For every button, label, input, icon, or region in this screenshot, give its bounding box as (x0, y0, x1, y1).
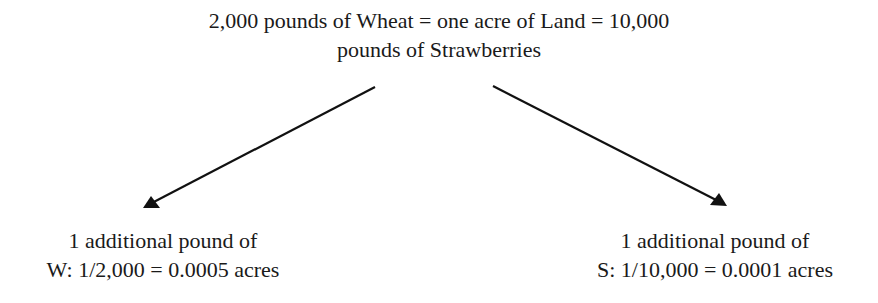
left-node-line2: W: 1/2,000 = 0.0005 acres (8, 255, 318, 284)
right-node-line1: 1 additional pound of (555, 226, 875, 255)
left-node-wheat: 1 additional pound of W: 1/2,000 = 0.000… (8, 226, 318, 284)
left-node-line1: 1 additional pound of (8, 226, 318, 255)
right-node-strawberries: 1 additional pound of S: 1/10,000 = 0.00… (555, 226, 875, 284)
arrow-to-strawberries (493, 86, 727, 206)
right-node-line2: S: 1/10,000 = 0.0001 acres (555, 255, 875, 284)
arrowhead-right-icon (710, 193, 727, 206)
arrowhead-left-icon (143, 196, 160, 208)
arrow-to-wheat (143, 87, 375, 208)
